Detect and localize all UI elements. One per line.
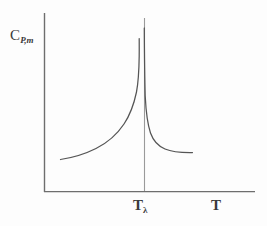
transition-subscript: λ: [143, 205, 147, 215]
y-axis-label: CP,m: [10, 28, 33, 45]
x-axis-label: T: [211, 198, 221, 213]
lambda-transition-heat-capacity-figure: CP,m Tλ T: [0, 0, 267, 226]
y-axis-subscript: P,m: [20, 35, 33, 45]
y-axis-symbol: C: [10, 27, 20, 43]
plot-canvas: [0, 0, 267, 226]
transition-symbol: T: [133, 197, 143, 213]
heat-capacity-curve-below-transition: [61, 39, 140, 160]
heat-capacity-curve-above-transition: [144, 28, 192, 153]
transition-temperature-label: Tλ: [133, 198, 147, 215]
